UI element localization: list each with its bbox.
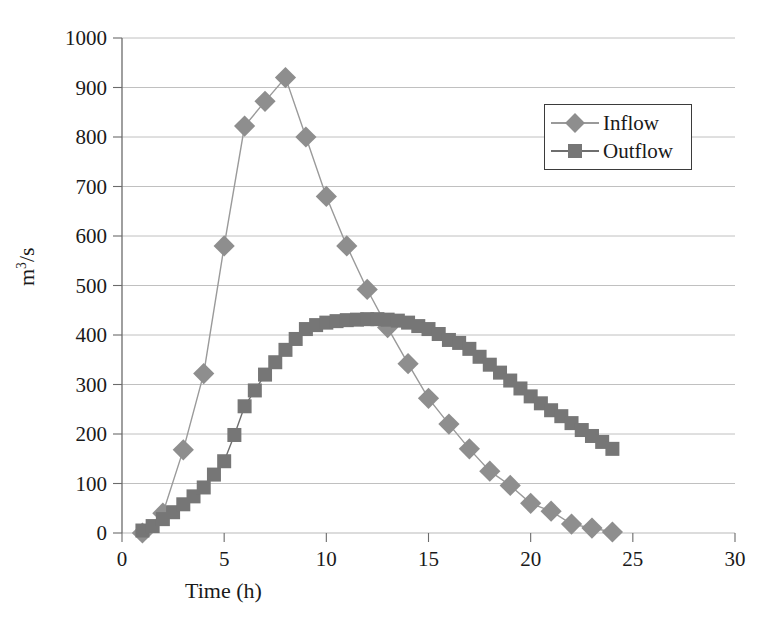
y-tick-label: 1000 [40,26,107,51]
y-tick-label: 600 [40,224,107,249]
series-line [142,78,612,533]
y-axis-title: m3/s [14,247,40,286]
y-tick-label: 300 [40,372,107,397]
diamond-marker [520,493,541,514]
square-marker [268,355,282,369]
diamond-marker [500,475,521,496]
legend-item-inflow: Inflow [551,109,685,137]
square-marker [217,454,231,468]
y-tick-label: 200 [40,422,107,447]
diamond-marker [540,501,561,522]
square-marker-icon [568,144,582,158]
diamond-marker [275,67,296,88]
chart-figure: 01002003004005006007008009001000 0510152… [0,0,777,626]
y-axis-title-exponent: 3 [14,262,29,269]
diamond-marker [397,353,418,374]
diamond-marker [316,186,337,207]
x-tick-label: 5 [219,547,230,572]
x-tick-label: 10 [316,547,337,572]
chart-legend: Inflow Outflow [544,104,692,170]
y-tick-label: 500 [40,273,107,298]
legend-label-inflow: Inflow [599,113,659,134]
legend-key-inflow [551,113,599,133]
square-marker [238,399,252,413]
x-axis-title-text: Time (h) [185,578,262,603]
y-tick-label: 400 [40,323,107,348]
diamond-marker [214,235,235,256]
diamond-marker [602,521,623,542]
x-tick-label: 25 [622,547,643,572]
x-tick-label: 15 [418,547,439,572]
diamond-marker [581,517,602,538]
y-tick-label: 0 [40,521,107,546]
diamond-marker [254,91,275,112]
square-marker [207,468,221,482]
x-tick-marks [122,533,735,542]
diamond-marker [561,513,582,534]
square-marker [227,428,241,442]
square-marker [605,442,619,456]
y-tick-label: 700 [40,174,107,199]
diamond-marker-icon [565,113,585,133]
legend-key-outflow [551,141,599,161]
diamond-marker [295,126,316,147]
y-tick-label: 100 [40,471,107,496]
x-tick-label: 30 [725,547,746,572]
diamond-marker [193,363,214,384]
y-tick-marks [113,38,122,533]
square-marker [248,383,262,397]
y-tick-label: 900 [40,75,107,100]
x-tick-label: 20 [520,547,541,572]
x-axis-title: Time (h) [0,578,777,604]
x-tick-label: 0 [117,547,128,572]
legend-item-outflow: Outflow [551,137,685,165]
diamond-marker [173,439,194,460]
diamond-marker [418,388,439,409]
diamond-marker [336,235,357,256]
y-axis-title-base: m [14,269,39,286]
square-marker [258,368,272,382]
y-tick-label: 800 [40,125,107,150]
chart-plot-area [0,0,777,626]
diamond-marker [438,413,459,434]
diamond-marker [357,279,378,300]
y-axis-title-tail: /s [14,247,39,262]
legend-label-outflow: Outflow [599,141,673,162]
diamond-marker [234,116,255,137]
square-marker [197,480,211,494]
series-line [142,319,612,530]
